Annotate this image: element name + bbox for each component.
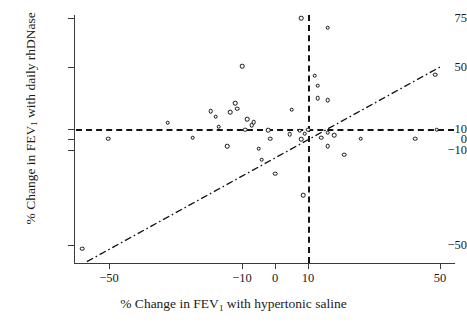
y-tick-label-n10: −10	[401, 144, 467, 156]
x-axis-title: % Change in FEV1 with hypertonic saline	[0, 296, 467, 313]
data-point	[326, 130, 331, 135]
data-point	[326, 26, 331, 31]
x-tick-label-50: 50	[434, 272, 447, 284]
data-point	[240, 64, 245, 69]
x-tick-label-n50: −50	[99, 272, 119, 284]
data-point	[213, 114, 218, 119]
x-tick-n50	[109, 263, 110, 269]
data-point	[217, 124, 222, 129]
data-point	[106, 136, 111, 141]
data-point	[245, 117, 250, 122]
data-point	[165, 121, 170, 126]
data-point	[299, 137, 304, 142]
y-axis-title-pre: % Change in FEV	[23, 126, 38, 225]
y-tick-label-n50: −50	[401, 239, 467, 251]
data-point	[273, 171, 278, 176]
horizontal-reference-line	[76, 129, 454, 131]
data-point	[316, 96, 321, 101]
data-point	[312, 73, 317, 78]
data-point	[332, 133, 337, 138]
y-tick-0	[68, 139, 75, 140]
data-point	[251, 120, 256, 125]
y-axis-title-subscript: 1	[29, 121, 39, 126]
y-tick-label-75: 75	[401, 12, 467, 24]
data-point	[359, 136, 364, 141]
x-axis-title-pre: % Change in FEV	[120, 296, 219, 311]
data-point	[233, 101, 238, 106]
data-point	[316, 83, 321, 88]
data-point	[299, 16, 304, 21]
data-point	[228, 110, 233, 115]
data-point	[268, 136, 273, 141]
data-point	[297, 128, 302, 133]
y-tick-label-50: 50	[401, 61, 467, 73]
x-tick-0	[275, 263, 276, 269]
data-point	[225, 144, 230, 149]
y-tick-n10	[68, 150, 75, 151]
data-point	[260, 157, 265, 162]
data-point	[289, 107, 294, 112]
data-point	[326, 144, 331, 149]
x-tick-label-n10: −10	[232, 272, 252, 284]
data-point	[266, 128, 271, 133]
x-tick-label-0: 0	[272, 272, 278, 284]
data-point	[256, 147, 261, 152]
data-point	[302, 131, 307, 136]
x-axis-line	[74, 263, 455, 264]
y-tick-75	[68, 18, 75, 19]
y-tick-50	[68, 67, 75, 68]
data-point	[288, 132, 293, 137]
vertical-reference-line	[308, 15, 310, 263]
data-point	[413, 136, 418, 141]
scatter-plot-figure: 75 50 10 0 −10 −50 −50 −10 0 10 50 % Cha…	[0, 0, 467, 323]
data-point	[190, 135, 195, 140]
data-point	[208, 109, 213, 114]
data-point	[434, 127, 439, 132]
data-point	[326, 98, 331, 103]
x-tick-10	[308, 263, 309, 269]
data-point	[243, 127, 248, 132]
identity-line	[75, 15, 455, 263]
x-tick-50	[440, 263, 441, 269]
data-point	[80, 246, 85, 251]
x-axis-title-post: with hypertonic saline	[223, 296, 346, 311]
data-point	[433, 72, 438, 77]
y-axis-title-post: with daily rhDNase	[23, 12, 38, 121]
data-point	[342, 152, 347, 157]
data-point	[235, 107, 240, 112]
y-axis-title: % Change in FEV1 with daily rhDNase	[23, 0, 40, 243]
y-tick-n50	[68, 245, 75, 246]
data-point	[306, 127, 311, 132]
y-tick-10	[68, 129, 75, 130]
data-point	[319, 135, 324, 140]
data-point	[301, 193, 306, 198]
x-tick-n10	[242, 263, 243, 269]
x-tick-label-10: 10	[302, 272, 315, 284]
